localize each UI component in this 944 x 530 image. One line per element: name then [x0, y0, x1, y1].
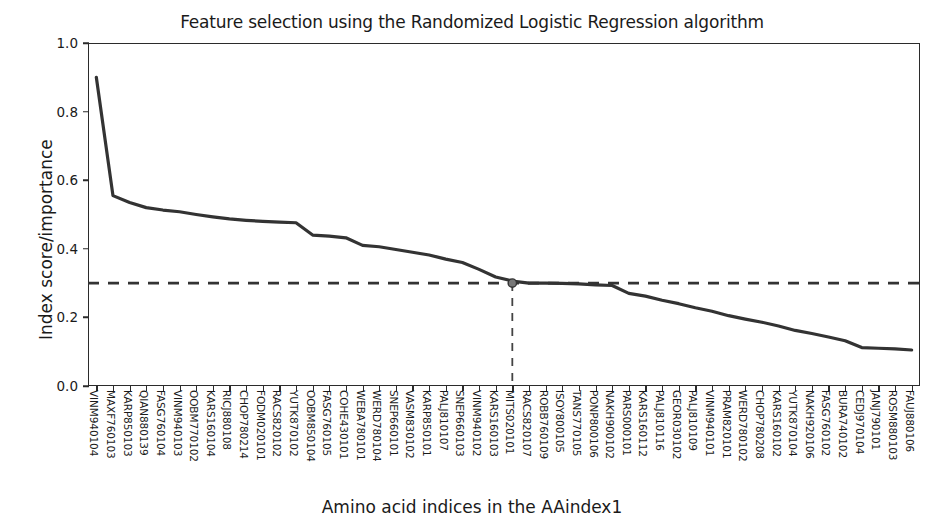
y-tick-mark: [83, 179, 89, 181]
x-tick-label: KARS160104: [205, 390, 217, 457]
x-tick-label: COHE430101: [338, 390, 350, 459]
x-tick-label: FASG760105: [321, 390, 333, 456]
x-tick-label: PRAM820101: [721, 390, 733, 459]
x-tick-label: ISOY800105: [554, 390, 566, 453]
x-tick-label: CHOP780214: [238, 390, 250, 459]
x-tick-label: YUTK870104: [787, 390, 799, 456]
x-tick-label: RICJ880108: [221, 390, 233, 450]
x-tick-label: OOBM770102: [188, 390, 200, 462]
x-tick-label: TANS770105: [571, 390, 583, 456]
x-tick-label: KARS160103: [488, 390, 500, 457]
x-tick-label: VASM830102: [404, 390, 416, 459]
x-tick-label: ROBB760109: [538, 390, 550, 459]
x-tick-label: MAXF760103: [105, 390, 117, 459]
y-tick-mark: [83, 385, 89, 387]
y-tick-mark: [83, 317, 89, 319]
y-tick-mark: [83, 248, 89, 250]
x-tick-label: JANJ790101: [870, 390, 882, 450]
x-tick-label: PALJ810116: [654, 390, 666, 451]
x-tick-label: FASG760104: [155, 390, 167, 456]
x-tick-label: PONP800106: [588, 390, 600, 458]
x-tick-label: SNEP660101: [388, 390, 400, 457]
x-tick-label: RACS820102: [271, 390, 283, 457]
x-tick-label: NAKH920106: [804, 390, 816, 459]
x-tick-label: KARP850103: [122, 390, 134, 457]
x-tick-label: VINM940102: [471, 390, 483, 456]
x-tick-label: CHOP780208: [754, 390, 766, 459]
x-tick-label: NAKH900102: [604, 390, 616, 459]
x-tick-label: KARS160112: [637, 390, 649, 457]
y-tick-label: 0.4: [38, 241, 78, 257]
x-tick-label: OOBM850104: [305, 390, 317, 462]
x-tick-label: FODM020101: [255, 390, 267, 461]
x-tick-label: YUTK870102: [288, 390, 300, 456]
x-tick-label: VINM940104: [88, 390, 100, 456]
x-tick-label: PARS000101: [621, 390, 633, 456]
x-tick-label: RACS820107: [521, 390, 533, 457]
x-tick-label: WEBA780101: [355, 390, 367, 461]
x-tick-label: SNEP660103: [454, 390, 466, 457]
x-tick-label: FASG760102: [820, 390, 832, 456]
x-tick-label: PALJ810109: [687, 390, 699, 451]
x-tick-label: GEOR030102: [671, 390, 683, 459]
y-tick-label: 0.8: [38, 104, 78, 120]
y-tick-mark: [83, 42, 89, 44]
x-tick-label: QIAN880139: [138, 390, 150, 455]
x-tick-label: KARS160102: [771, 390, 783, 457]
x-tick-label: CEDJ970104: [854, 390, 866, 454]
y-tick-mark: [83, 111, 89, 113]
x-tick-label: MITS020101: [504, 390, 516, 454]
x-tick-label: PALJ810107: [438, 390, 450, 451]
x-tick-label: WERD780102: [737, 390, 749, 461]
y-tick-label: 0.2: [38, 309, 78, 325]
x-tick-label: VINM940103: [172, 390, 184, 456]
y-tick-label: 0.6: [38, 172, 78, 188]
x-tick-label: WERD780104: [371, 390, 383, 461]
x-tick-label: ROSM880103: [887, 390, 899, 460]
chart-root: Feature selection using the Randomized L…: [0, 0, 944, 530]
x-tick-label: VINM940101: [704, 390, 716, 456]
x-tick-label: KARP850101: [421, 390, 433, 457]
x-tick-label: BURA740102: [837, 390, 849, 458]
y-tick-label: 0.0: [38, 378, 78, 394]
x-tick-label: FAUJ880106: [904, 390, 916, 452]
y-tick-label: 1.0: [38, 35, 78, 51]
